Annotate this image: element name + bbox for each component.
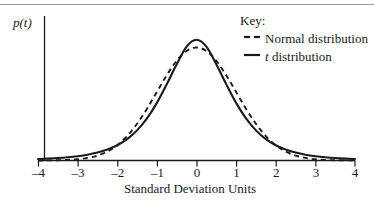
normal-distribution-curve (38, 47, 355, 160)
legend-label-t-rest: distribution (269, 49, 332, 64)
x-tick-label-minus1: –1 (144, 166, 170, 179)
legend-label-t: t distribution (265, 50, 332, 63)
x-tick-label-minus2: –2 (105, 166, 131, 179)
x-tick-label-plus4: 4 (342, 166, 368, 179)
chart-figure: p(t) –4 –3 –2 –1 0 1 2 3 4 Standard Devi… (0, 0, 374, 205)
x-tick-label-plus3: 3 (303, 166, 329, 179)
x-axis-title: Standard Deviation Units (0, 182, 374, 195)
x-tick-label-plus2: 2 (263, 166, 289, 179)
x-tick-label-plus1: 1 (224, 166, 250, 179)
legend-title: Key: (240, 14, 265, 27)
y-axis-label: p(t) (13, 16, 32, 29)
x-tick-label-minus4: –4 (26, 166, 52, 179)
x-tick-label-minus3: –3 (65, 166, 91, 179)
x-tick-label-zero: 0 (184, 166, 210, 179)
legend-label-normal: Normal distribution (265, 32, 368, 45)
